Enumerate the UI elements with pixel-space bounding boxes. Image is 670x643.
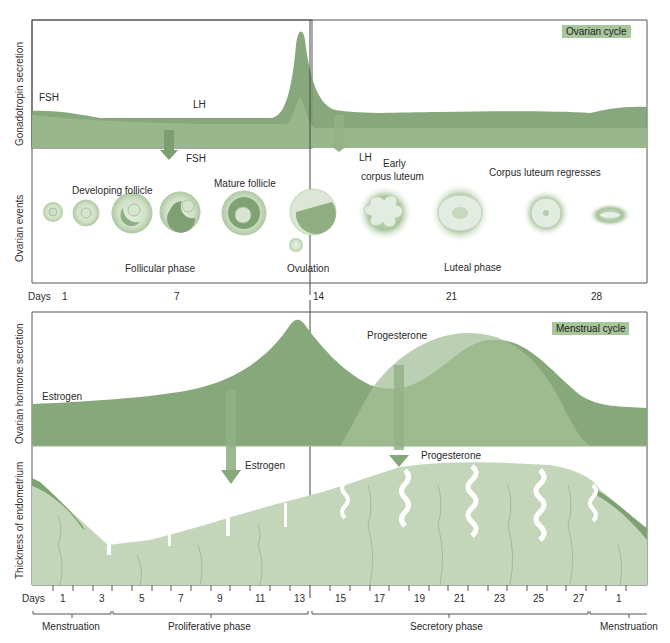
corpus-luteum-regresses-label: Corpus luteum regresses [489,167,601,178]
top-day-tick: 1 [62,291,68,302]
bottom-day-tick: 17 [374,593,385,604]
progesterone-arrow-label: Progesterone [421,450,481,461]
ovarian-hormone-secretion-axis-label: Ovarian hormone secretion [14,323,25,444]
early-corpus-luteum-label-2: corpus luteum [361,171,424,182]
bottom-day-tick: 15 [335,593,346,604]
bottom-day-tick: 25 [533,593,544,604]
ovarian-events-axis-label: Ovarian events [14,195,25,262]
bottom-day-tick: 1 [616,593,622,604]
lh-arrow-label: LH [359,152,372,163]
bottom-day-tick: 19 [414,593,425,604]
bottom-day-tick: 23 [494,593,505,604]
bottom-day-tick: 27 [573,593,584,604]
progesterone-curve-label: Progesterone [367,330,427,341]
ovarian-cycle-tag: Ovarian cycle [562,25,631,38]
ovulation-label: Ovulation [287,263,329,274]
top-day-tick: 7 [174,291,180,302]
lh-curve-label: LH [193,99,206,110]
bottom-day-tick: 3 [99,593,105,604]
menstruation-phase-label: Menstruation [42,621,100,632]
luteal-phase-label: Luteal phase [444,262,501,273]
fsh-arrow-label: FSH [186,153,206,164]
bottom-day-tick: 9 [217,593,223,604]
menstrual-cycle-tag: Menstrual cycle [552,322,629,335]
top-day-tick: 14 [313,291,324,302]
fsh-curve-label: FSH [39,92,59,103]
menstruation-phase-label-2: Menstruation [600,621,658,632]
thickness-of-endometrium-axis-label: Thickness of endometrium [14,462,25,579]
bottom-day-tick: 11 [255,593,265,604]
top-days-label: Days [28,291,51,302]
bottom-day-tick: 13 [294,593,305,604]
secretory-phase-label: Secretory phase [410,621,483,632]
developing-follicle-label: Developing follicle [72,185,153,196]
top-day-tick: 21 [446,291,457,302]
bottom-day-tick: 5 [139,593,145,604]
bottom-day-tick: 21 [454,593,465,604]
gonadotropin-secretion-axis-label: Gonadotropin secretion [14,42,25,146]
bottom-day-tick: 7 [178,593,184,604]
proliferative-phase-label: Proliferative phase [168,621,251,632]
early-corpus-luteum-label-1: Early [383,158,406,169]
top-day-tick: 28 [591,291,602,302]
estrogen-curve-label: Estrogen [42,391,82,402]
estrogen-arrow-label: Estrogen [245,460,285,471]
bottom-day-tick: 1 [60,593,66,604]
follicular-phase-label: Follicular phase [125,263,195,274]
mature-follicle-label: Mature follicle [214,178,276,189]
bottom-days-label: Days [22,593,45,604]
